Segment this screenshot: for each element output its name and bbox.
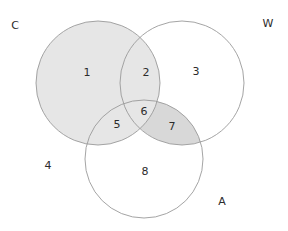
set-label-a: A [218,195,226,208]
venn-svg: C W A 1 2 3 4 5 6 7 8 [0,0,288,231]
venn-diagram-canvas: C W A 1 2 3 4 5 6 7 8 [0,0,288,231]
region-label-7: 7 [169,120,176,133]
region-label-6: 6 [141,105,148,118]
region-label-8: 8 [142,165,149,178]
set-label-c: C [11,19,19,32]
region-label-3: 3 [193,65,200,78]
set-label-w: W [263,17,274,30]
region-label-4: 4 [45,159,52,172]
region-label-5: 5 [114,118,121,131]
region-label-2: 2 [143,66,150,79]
region-label-1: 1 [84,66,91,79]
